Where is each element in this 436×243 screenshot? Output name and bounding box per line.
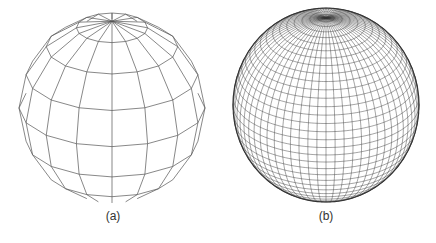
caption-a: (a) bbox=[93, 209, 133, 223]
fine-sphere-wireframe bbox=[218, 0, 436, 243]
caption-b: (b) bbox=[306, 209, 346, 223]
panel-b-fine-sphere: (b) bbox=[218, 0, 436, 243]
wireframe-grid-lines bbox=[19, 13, 205, 203]
coarse-sphere-wireframe bbox=[0, 0, 218, 243]
panel-a-coarse-sphere: (a) bbox=[0, 0, 218, 243]
wireframe-grid-lines bbox=[233, 8, 419, 202]
